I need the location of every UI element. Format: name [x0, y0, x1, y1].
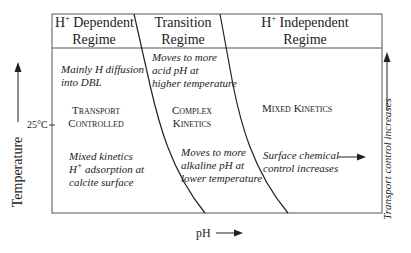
mid-bottom-line1: Moves to more — [181, 146, 262, 159]
mid-bottom-line3: lower temperature — [181, 172, 262, 185]
region-mid-mid: Complex Kinetics — [164, 104, 220, 130]
mid-top-line2: acid pH at — [152, 64, 237, 77]
x-axis-title: pH — [196, 226, 211, 240]
left-mid-line1: Transport — [64, 104, 128, 117]
header-transition-line1: Transition — [144, 15, 222, 32]
transport-arrowhead-icon — [384, 52, 391, 62]
h-symbol: H — [69, 163, 77, 175]
y-axis-label: Temperature — [10, 137, 27, 208]
region-mid-bottom: Moves to more alkaline pH at lower tempe… — [181, 146, 262, 185]
left-top-line1: Mainly H diffusion — [61, 63, 144, 76]
header-transition-line2: Regime — [144, 32, 222, 49]
x-axis-arrowhead-icon — [234, 230, 243, 237]
y-tick-label: 25°C — [27, 119, 48, 131]
y-tick-25c-label: 25°C — [27, 119, 48, 130]
header-h-independent: H+ Independent Regime — [250, 15, 360, 48]
header-h-independent-line1: Independent — [276, 15, 349, 30]
mid-bottom-line2: alkaline pH at — [181, 159, 262, 172]
left-top-line2: into DBL — [61, 76, 144, 89]
left-bottom-line2: adsorption at — [82, 163, 144, 175]
x-axis-label: pH — [196, 226, 211, 240]
y-axis-title: Temperature — [10, 137, 25, 208]
h-symbol: H — [261, 15, 271, 30]
right-axis-label: Transport control increases — [381, 98, 394, 219]
region-mid-top: Moves to more acid pH at higher temperat… — [152, 51, 237, 90]
header-h-dependent: H+ Dependent Regime — [55, 15, 133, 48]
region-right-mid: Mixed Kinetics — [262, 102, 332, 115]
left-mid-line2: Controlled — [64, 117, 128, 130]
mid-mid-line2: Kinetics — [164, 117, 220, 130]
mid-top-line3: higher temperature — [152, 77, 237, 90]
y-axis-arrowhead-icon — [15, 62, 22, 72]
region-left-bottom: Mixed kinetics H+ adsorption at calcite … — [69, 150, 144, 189]
surface-arrowhead-icon — [357, 154, 366, 161]
header-h-dependent-line2: Regime — [55, 32, 133, 49]
right-bottom-line1: Surface chemical — [263, 149, 339, 162]
mid-top-line1: Moves to more — [152, 51, 237, 64]
transport-control-label: Transport control increases — [381, 98, 393, 219]
header-h-independent-line2: Regime — [250, 32, 360, 49]
region-left-top: Mainly H diffusion into DBL — [61, 63, 144, 89]
region-right-bottom: Surface chemical control increases — [263, 149, 339, 175]
header-h-dependent-line1: Dependent — [70, 15, 134, 30]
header-transition: Transition Regime — [144, 15, 222, 48]
region-left-mid: Transport Controlled — [64, 104, 128, 130]
mid-mid-line1: Complex — [164, 104, 220, 117]
right-bottom-line2: control increases — [263, 162, 339, 175]
left-bottom-line3: calcite surface — [69, 176, 144, 189]
h-symbol: H — [55, 15, 65, 30]
right-mid-label: Mixed Kinetics — [262, 102, 332, 114]
